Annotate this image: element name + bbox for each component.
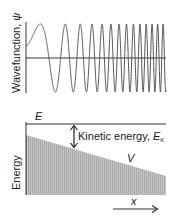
- potential-energy-region: [26, 135, 166, 195]
- wavefunction-panel: Wavefunction, ψ: [10, 13, 166, 93]
- total-energy-label: E: [35, 110, 43, 122]
- x-axis-label: x: [130, 195, 137, 207]
- potential-energy-label: V: [127, 152, 136, 164]
- energy-axis-label: Energy: [10, 155, 22, 190]
- kinetic-energy-double-arrow-icon: [71, 126, 78, 148]
- wavefunction-axis-label: Wavefunction, ψ: [10, 13, 22, 93]
- kinetic-energy-label: Kinetic energy, EK: [78, 130, 164, 143]
- energy-panel: E Kinetic energy, EK V Energy x: [10, 110, 166, 213]
- diagram-canvas: Wavefunction, ψ E Kinetic energy, EK V E…: [0, 0, 175, 222]
